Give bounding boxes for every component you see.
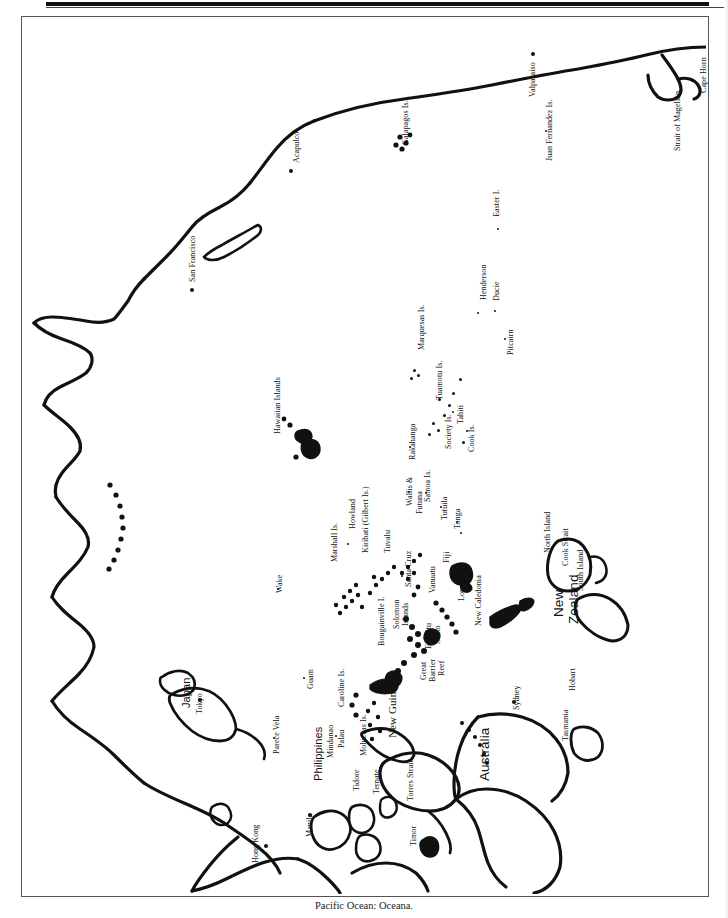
map-label-mindanao: Mindanao (327, 725, 335, 758)
map-marker-society-c (428, 433, 431, 436)
map-label-juan-fernandez-is: Juan Fernandez Is. (546, 99, 554, 161)
map-label-new-guinea: New Guinea (387, 682, 398, 738)
map-label-caroline-is: Caroline Is. (338, 668, 346, 707)
map-label-pitcairn: Pitcairn (507, 329, 515, 355)
page-top-rule-thin (46, 7, 724, 8)
map-coastlines (22, 17, 706, 894)
map-label-new: New (552, 590, 566, 617)
map-marker-marquesas-b (417, 374, 420, 377)
map-label-howland: Howland (349, 499, 357, 529)
page-edge-shadow (724, 0, 728, 918)
map-marker-marquesas-c (410, 377, 413, 380)
map-label-manila: Manila (306, 814, 314, 837)
map-label-barrier: Barrier (429, 659, 437, 682)
map-label-moluccas-is: Moluccas Is. (360, 714, 368, 756)
page-top-rule (46, 2, 709, 6)
map-label-great: Great (420, 662, 428, 680)
map-label-hobart: Hobart (569, 668, 577, 691)
figure-caption: Pacific Ocean: Oceana. (0, 900, 728, 911)
map-marker-cook-a (462, 441, 465, 444)
map-label-cape-horn: Cape Horn (700, 57, 708, 93)
map-label-wake: Wake (276, 575, 284, 593)
map-label-new-caledonia: New Caledonia (475, 575, 483, 626)
map-label-zealand: Zealand (567, 575, 581, 625)
map-label-philippines: Philippines (313, 727, 324, 781)
map-label-society-is: Society Is. (445, 414, 453, 449)
map-label-tuamotu-is: Tuamotu Is. (436, 361, 444, 400)
map-label-ternate: Ternate (373, 769, 381, 794)
map-label-bougainville-i: Bougainville I. (378, 597, 386, 647)
map-label-palau: Palau (338, 730, 346, 748)
map-label-tonga: Tonga (454, 509, 462, 529)
map-label-loyalty-is: Loyalty Is. (458, 565, 466, 601)
map-label-rakahanga: Rakahanga (409, 424, 417, 460)
map-label-santo: Santo (434, 625, 442, 644)
map-label-espiritu: Espiritu (425, 623, 433, 649)
map-label-fiji: Fiji (443, 551, 451, 563)
map-label-santa-cruz: Santa Cruz (405, 551, 413, 587)
map-label-reef: Reef (438, 660, 446, 676)
map-label-kiribati-gilbert-is: Kiribati (Gilbert Is.) (362, 486, 370, 553)
map-label-sydney: Sydney (513, 685, 521, 710)
map-marker-society-a (432, 422, 435, 425)
map-label-australia: Australia (478, 728, 492, 781)
map-label-torres-strait: Torres Strait (407, 760, 415, 801)
map-label-japan: Japan (181, 678, 192, 708)
map-label-tutuila: Tutuila (441, 496, 449, 520)
map-label-timor: Timor (410, 826, 418, 846)
map-label-north-island: North Island (544, 512, 552, 553)
map-label-marshall-is: Marshall Is. (331, 523, 339, 562)
map-marker-tuamotu-d (438, 398, 441, 401)
map-marker-tuamotu-b (452, 392, 455, 395)
map-label-tasmania: Tasmania (562, 710, 570, 741)
map-label-easter-i: Easter I. (493, 189, 501, 217)
map-label-ducie: Ducie (493, 281, 501, 301)
map-label-vanuatu: Vanuatu (429, 566, 437, 593)
map-label-cook-strait: Cook Strait (562, 528, 570, 566)
map-label-guam: Guam (307, 669, 315, 689)
map-frame: Cape HornStrait of MagellanValparaisoJua… (21, 16, 709, 897)
map-label-galapagos-is: Galapagos Is. (402, 100, 410, 145)
map-marker-tuamotu-a (459, 378, 462, 381)
map-label-strait-of-magellan: Strait of Magellan (674, 91, 682, 151)
map-label-henderson: Henderson (480, 264, 488, 300)
map-label-tuvalu: Tuvalu (384, 530, 392, 553)
map-label-parece-vela: Parece Vela (273, 716, 281, 755)
map-label-islands: Islands (402, 603, 410, 626)
map-label-tokyo: Tokyo (196, 693, 204, 714)
map-label-valparaiso: Valparaiso (529, 62, 537, 97)
map-label-tidore: Tidore (353, 769, 361, 791)
map-label-solomon: Solomon (393, 599, 401, 629)
map-marker-tuamotu-c (448, 404, 451, 407)
map-label-hawaiian-islands: Hawaiian Islands (274, 377, 282, 434)
map-label-san-francisco: San Francisco (189, 236, 197, 282)
map-label-marquesas-is: Marquesas Is. (418, 304, 426, 350)
map-label-hong-kong: Hong Kong (252, 825, 260, 863)
map-marker-society-b (437, 429, 440, 432)
map-marker-marquesas-a (413, 369, 416, 372)
map-label-tahiti: Tahiti (457, 405, 465, 424)
map-label-samoa-is: Samoa Is. (424, 470, 432, 502)
map-label-cook-is: Cook Is. (468, 424, 476, 452)
map-marker-tuamotu-e (443, 414, 446, 417)
map-label-acapulco: Acapulco (293, 132, 301, 163)
